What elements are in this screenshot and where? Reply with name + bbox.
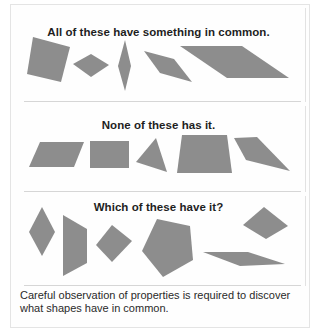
shape-square-rotated xyxy=(96,225,132,262)
shapes-non-examples xyxy=(29,135,290,173)
shape-pentagon xyxy=(142,219,193,277)
shape-rhombus-tall xyxy=(118,40,131,91)
shape-trapezoid xyxy=(177,135,232,173)
shape-triangle xyxy=(136,138,167,172)
shape-parallelogram-wide xyxy=(180,46,289,78)
shape-rhombus-slanted xyxy=(144,51,192,82)
figure-caption: Careful observation of properties is req… xyxy=(20,289,305,315)
shape-quadrilateral-kite xyxy=(63,215,87,276)
shape-parallelogram xyxy=(29,142,84,167)
shape-rhombus-slanted xyxy=(243,207,288,239)
shape-rhombus-vertical xyxy=(29,207,55,256)
shape-rectangle xyxy=(90,141,129,168)
shape-quadrilateral-irregular xyxy=(234,137,290,171)
caption-line-1: Careful observation of properties is req… xyxy=(20,289,305,302)
shape-square-rotated xyxy=(27,37,70,82)
shapes-test xyxy=(29,207,288,277)
caption-line-2: what shapes have in common. xyxy=(20,302,305,315)
shape-rhombus-small xyxy=(73,54,109,77)
shape-parallelogram-flat xyxy=(203,252,285,266)
shapes-layer xyxy=(0,0,319,336)
shapes-examples xyxy=(27,37,289,91)
